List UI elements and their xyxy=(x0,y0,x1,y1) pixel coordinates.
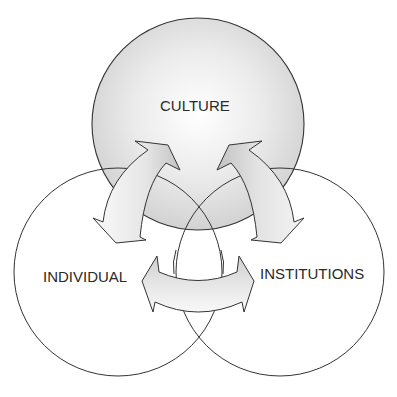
institutions-label: INSTITUTIONS xyxy=(260,265,364,282)
diagram-canvas xyxy=(0,0,397,397)
venn-diagram: CULTURE INDIVIDUAL INSTITUTIONS xyxy=(0,0,397,397)
arrow-individual-institutions xyxy=(142,256,254,312)
individual-label: INDIVIDUAL xyxy=(43,268,127,285)
culture-label: CULTURE xyxy=(160,97,230,114)
